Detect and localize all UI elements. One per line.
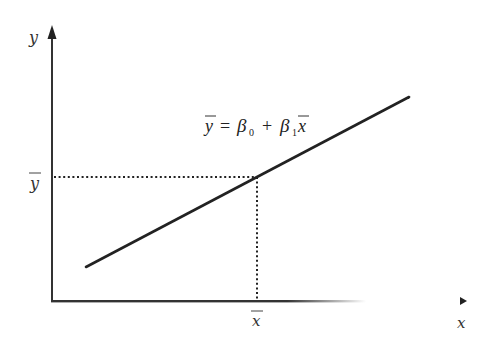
eq-beta0: β: [236, 115, 247, 136]
regression-equation: y = β 0 + β 1 x: [203, 115, 309, 138]
x-axis: [51, 300, 366, 302]
eq-sub1: 1: [292, 127, 297, 138]
x-bar-label: x: [252, 312, 261, 330]
regression-diagram: y x y x y = β 0 + β 1 x: [0, 0, 483, 346]
eq-x-bar: x: [297, 116, 306, 136]
eq-equals: =: [220, 116, 230, 136]
regression-line: [86, 97, 409, 267]
eq-plus: +: [262, 116, 272, 136]
eq-y-bar: y: [203, 116, 213, 136]
y-axis-label: y: [28, 28, 39, 47]
y-axis-arrow-icon: [48, 25, 57, 39]
eq-beta1: β: [279, 115, 290, 136]
x-axis-label: x: [457, 314, 466, 332]
y-bar-label: y: [29, 174, 40, 193]
x-axis-arrow-icon: [460, 297, 467, 305]
eq-sub0: 0: [249, 127, 254, 138]
